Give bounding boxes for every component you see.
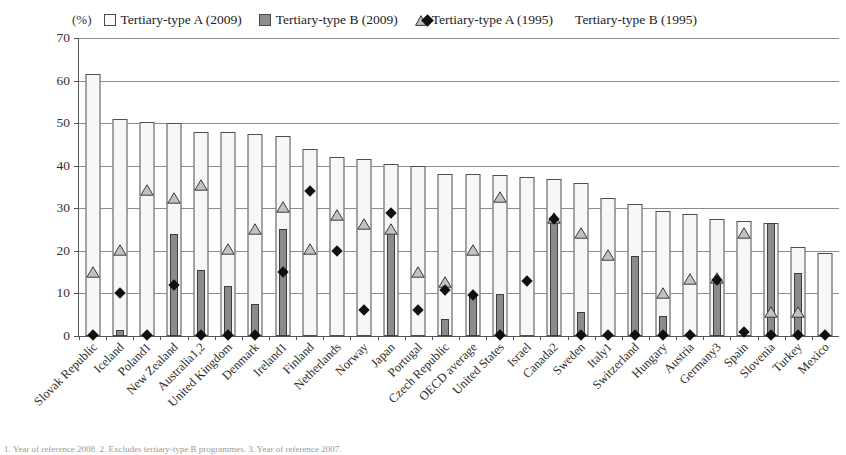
marker-tertiary-a-1995[interactable] <box>574 227 588 239</box>
bar-group[interactable] <box>459 38 486 336</box>
bar-group[interactable] <box>486 38 513 336</box>
bar-group[interactable] <box>540 38 567 336</box>
bar-tertiary-b-2009[interactable] <box>550 221 558 336</box>
bar-group[interactable] <box>296 38 323 336</box>
bar-tertiary-b-2009[interactable] <box>279 229 287 336</box>
bar-group[interactable] <box>350 38 377 336</box>
bar-tertiary-a-2009[interactable] <box>519 177 534 336</box>
bar-group[interactable] <box>79 38 106 336</box>
bar-group[interactable] <box>188 38 215 336</box>
x-axis-tick <box>513 336 514 340</box>
bar-group[interactable] <box>568 38 595 336</box>
marker-tertiary-a-1995[interactable] <box>303 243 317 255</box>
x-axis-tick <box>459 336 460 340</box>
x-axis-tick <box>432 336 433 340</box>
bar-tertiary-b-2009[interactable] <box>116 330 124 336</box>
x-axis-tick <box>79 336 80 340</box>
bar-tertiary-a-2009[interactable] <box>818 253 833 336</box>
marker-tertiary-a-1995[interactable] <box>683 273 697 285</box>
bar-tertiary-b-2009[interactable] <box>713 280 721 336</box>
bar-group[interactable] <box>133 38 160 336</box>
bar-group[interactable] <box>160 38 187 336</box>
bar-tertiary-b-2009[interactable] <box>387 230 395 336</box>
x-axis-tick <box>622 336 623 340</box>
marker-tertiary-a-1995[interactable] <box>140 184 154 196</box>
marker-tertiary-a-1995[interactable] <box>764 306 778 318</box>
marker-tertiary-a-1995[interactable] <box>167 192 181 204</box>
bar-tertiary-b-2009[interactable] <box>441 319 449 336</box>
marker-tertiary-a-1995[interactable] <box>276 201 290 213</box>
bar-group[interactable] <box>215 38 242 336</box>
marker-tertiary-a-1995[interactable] <box>357 218 371 230</box>
legend-item-tertiary-b-2009: Tertiary-type B (2009) <box>259 12 398 28</box>
marker-tertiary-a-1995[interactable] <box>384 223 398 235</box>
bar-tertiary-b-2009[interactable] <box>767 223 775 336</box>
legend-label: Tertiary-type B (2009) <box>276 12 398 28</box>
bar-group[interactable] <box>812 38 839 336</box>
bar-group[interactable] <box>785 38 812 336</box>
chart-legend: (%) Tertiary-type A (2009) Tertiary-type… <box>0 9 846 31</box>
marker-tertiary-a-1995[interactable] <box>737 227 751 239</box>
footnote: 1. Year of reference 2008. 2. Excludes t… <box>4 444 844 454</box>
gray-square-icon <box>259 14 271 26</box>
legend-label: Tertiary-type A (1995) <box>432 12 553 28</box>
y-axis-tick-label: 60 <box>40 73 70 89</box>
bar-group[interactable] <box>595 38 622 336</box>
x-axis-tick <box>730 336 731 340</box>
marker-tertiary-a-1995[interactable] <box>113 244 127 256</box>
bar-group[interactable] <box>513 38 540 336</box>
bar-group[interactable] <box>676 38 703 336</box>
marker-tertiary-a-1995[interactable] <box>601 249 615 261</box>
bar-group[interactable] <box>432 38 459 336</box>
bar-group[interactable] <box>242 38 269 336</box>
x-axis-tick <box>405 336 406 340</box>
bar-group[interactable] <box>649 38 676 336</box>
y-axis-tick-label: 50 <box>40 115 70 131</box>
x-axis-tick <box>676 336 677 340</box>
bar-tertiary-b-2009[interactable] <box>224 286 232 336</box>
marker-tertiary-a-1995[interactable] <box>791 306 805 318</box>
chart-root: (%) Tertiary-type A (2009) Tertiary-type… <box>0 0 846 455</box>
bar-group[interactable] <box>405 38 432 336</box>
bar-tertiary-a-2009[interactable] <box>85 74 100 336</box>
x-axis-tick <box>188 336 189 340</box>
marker-tertiary-a-1995[interactable] <box>221 243 235 255</box>
legend-label: Tertiary-type B (1995) <box>575 12 697 28</box>
bar-tertiary-a-2009[interactable] <box>438 174 453 336</box>
bar-tertiary-a-2009[interactable] <box>601 198 616 336</box>
plot-area <box>78 38 839 337</box>
bar-group[interactable] <box>323 38 350 336</box>
bar-group[interactable] <box>378 38 405 336</box>
marker-tertiary-a-1995[interactable] <box>656 287 670 299</box>
marker-tertiary-a-1995[interactable] <box>411 266 425 278</box>
marker-tertiary-a-1995[interactable] <box>248 223 262 235</box>
bar-tertiary-b-2009[interactable] <box>197 270 205 336</box>
x-axis-tick <box>350 336 351 340</box>
unit-label: (%) <box>72 12 92 28</box>
bar-tertiary-b-2009[interactable] <box>794 273 802 336</box>
x-axis-tick <box>378 336 379 340</box>
bar-tertiary-a-2009[interactable] <box>302 149 317 336</box>
marker-tertiary-a-1995[interactable] <box>194 179 208 191</box>
bar-tertiary-a-2009[interactable] <box>112 119 127 336</box>
bar-group[interactable] <box>269 38 296 336</box>
legend-item-tertiary-a-2009: Tertiary-type A (2009) <box>104 12 242 28</box>
x-axis-tick <box>323 336 324 340</box>
bar-group[interactable] <box>730 38 757 336</box>
x-axis-tick <box>296 336 297 340</box>
bar-group[interactable] <box>703 38 730 336</box>
marker-tertiary-a-1995[interactable] <box>466 244 480 256</box>
bar-group[interactable] <box>106 38 133 336</box>
marker-tertiary-a-1995[interactable] <box>86 266 100 278</box>
x-axis-tick <box>486 336 487 340</box>
x-axis-tick <box>540 336 541 340</box>
bar-group[interactable] <box>758 38 785 336</box>
marker-tertiary-a-1995[interactable] <box>493 191 507 203</box>
x-axis-tick <box>215 336 216 340</box>
bar-tertiary-a-2009[interactable] <box>139 122 154 336</box>
x-axis-tick <box>649 336 650 340</box>
bar-tertiary-b-2009[interactable] <box>631 256 639 336</box>
marker-tertiary-a-1995[interactable] <box>330 209 344 221</box>
bar-group[interactable] <box>622 38 649 336</box>
x-axis-tick <box>242 336 243 340</box>
